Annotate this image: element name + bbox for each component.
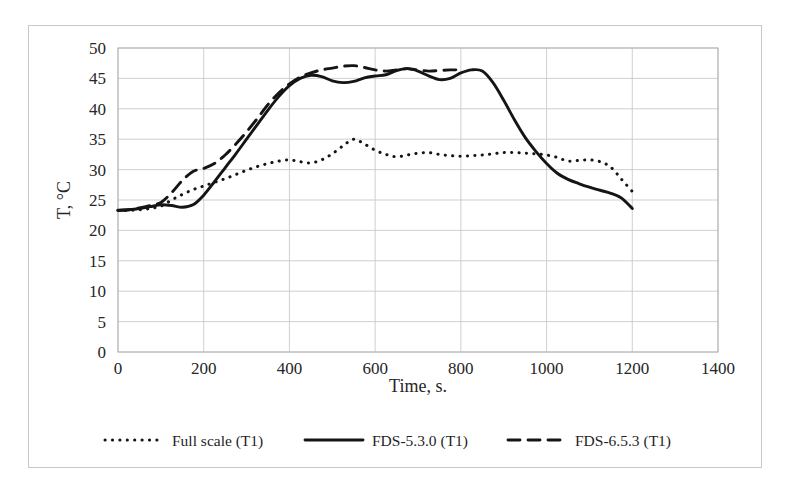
figure-border: [28, 25, 762, 468]
chart-figure: 05101520253035404550 0200400600800100012…: [0, 0, 787, 503]
